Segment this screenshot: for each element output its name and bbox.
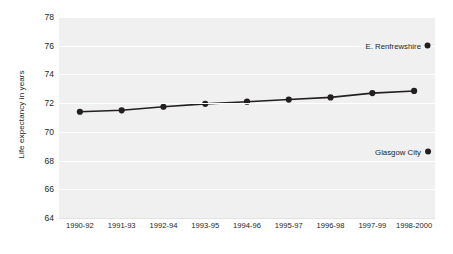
legend-entry: E. Renfrewshire xyxy=(366,41,431,50)
life-expectancy-line-chart: Life expectancy in years 646668707274767… xyxy=(0,0,453,254)
x-axis-tick-labels: 1990-921991-931992-941993-951994-961995-… xyxy=(59,221,435,237)
gridline xyxy=(59,132,435,133)
y-axis-tick-label: 66 xyxy=(7,184,59,194)
y-axis-tick-label: 76 xyxy=(7,41,59,51)
x-axis-tick-label: 1997-99 xyxy=(358,221,386,230)
x-axis-tick-label: 1994-96 xyxy=(233,221,261,230)
y-axis-tick-label: 68 xyxy=(7,156,59,166)
gridline xyxy=(59,74,435,75)
legend-marker-icon xyxy=(425,149,431,155)
x-axis-tick-label: 1993-95 xyxy=(191,221,219,230)
data-point-marker xyxy=(369,90,375,96)
y-axis-tick-label: 74 xyxy=(7,69,59,79)
y-axis-tick-label: 78 xyxy=(7,12,59,22)
y-axis-tick-label: 64 xyxy=(7,213,59,223)
legend-label: Glasgow City xyxy=(375,147,421,156)
legend-marker-icon xyxy=(425,43,431,49)
plot-area: E. RenfrewshireGlasgow City xyxy=(59,17,435,218)
x-axis-tick-label: 1991-93 xyxy=(108,221,136,230)
data-point-marker xyxy=(77,109,83,115)
gridline xyxy=(59,161,435,162)
x-axis-tick-label: 1996-98 xyxy=(317,221,345,230)
data-point-marker xyxy=(119,107,125,113)
data-point-marker xyxy=(160,104,166,110)
y-axis-tick-label: 70 xyxy=(7,127,59,137)
y-axis-tick-labels: 6466687072747678 xyxy=(0,0,59,254)
x-axis-tick-label: 1995-97 xyxy=(275,221,303,230)
gridline xyxy=(59,189,435,190)
gridline xyxy=(59,218,435,219)
gridline xyxy=(59,103,435,104)
gridline xyxy=(59,17,435,18)
legend-label: E. Renfrewshire xyxy=(366,41,421,50)
data-point-marker xyxy=(327,94,333,100)
x-axis-tick-label: 1998-2000 xyxy=(396,221,432,230)
data-point-marker xyxy=(286,96,292,102)
x-axis-tick-label: 1990-92 xyxy=(66,221,94,230)
y-axis-tick-label: 72 xyxy=(7,98,59,108)
data-point-marker xyxy=(411,88,417,94)
x-axis-tick-label: 1992-94 xyxy=(150,221,178,230)
legend-entry: Glasgow City xyxy=(375,147,431,156)
